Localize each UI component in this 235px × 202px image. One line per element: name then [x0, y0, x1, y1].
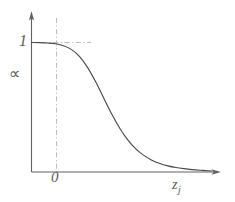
- x-axis-tick-label-zero: 0: [51, 170, 59, 185]
- y-axis-title-alpha: ∝: [9, 66, 21, 82]
- plot-canvas: [0, 0, 235, 202]
- y-axis-tick-label-one: 1: [19, 33, 27, 49]
- sigmoid-decay-curve: [32, 43, 213, 171]
- x-axis-title-zj: zj: [172, 178, 181, 195]
- figure-container: 1 0 ∝ zj: [0, 0, 235, 202]
- x-axis-title-subscript: j: [177, 184, 180, 195]
